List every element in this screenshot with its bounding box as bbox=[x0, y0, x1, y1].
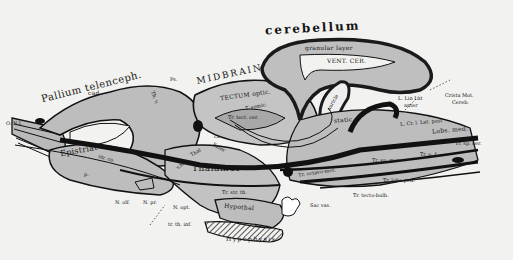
label-granular-layer: granular layer bbox=[305, 45, 353, 51]
habenular-nucleus bbox=[193, 120, 203, 132]
label-crista: Crista Mot. bbox=[445, 93, 474, 98]
label-tr-sp-mes: Tr. sp. mes. bbox=[372, 158, 401, 163]
label-lin-lat: L. Lin Lat bbox=[398, 96, 423, 101]
label-thalamus: Thalamus bbox=[192, 164, 240, 173]
label-tr-th-inf: tr. th. inf. bbox=[168, 222, 192, 227]
label-n-pr: N. pr. bbox=[143, 200, 157, 205]
label-tr-lobo-ped: Tr. lobo-ped. bbox=[383, 178, 415, 183]
label-lin-lat-sub: anter bbox=[404, 103, 418, 108]
label-tr-olf: Tr. o. f. bbox=[420, 152, 438, 157]
brain-diagram: cerebellum granular layer VENT. CER. aur… bbox=[0, 0, 513, 260]
label-n-opt: N. opt. bbox=[173, 205, 190, 210]
label-n-i: O. N.I. bbox=[6, 121, 22, 126]
label-p: p. bbox=[84, 172, 89, 177]
label-cad: cad bbox=[88, 90, 100, 96]
label-crista-sub: Cereb. bbox=[452, 100, 469, 105]
saccus-vasculosus bbox=[282, 197, 300, 216]
label-tr-tect-cer: Tr. tect. cer. bbox=[228, 115, 259, 120]
label-sac-vas: Sac vas. bbox=[310, 203, 331, 208]
label-vent-cer: VENT. CER. bbox=[327, 58, 366, 64]
label-cx: cx bbox=[214, 134, 220, 139]
label-hypophysis: Hypophysis bbox=[226, 236, 276, 242]
label-tr-str-th: Tr. str. th. bbox=[222, 190, 247, 195]
label-pallium-ps: Ps. bbox=[170, 77, 177, 82]
label-tr-sp-cer: Tr. sp. cer. bbox=[455, 141, 482, 146]
label-n-olf: N. olf. bbox=[115, 200, 130, 205]
label-tr-tecto-bulb: Tr. tecto-bulb. bbox=[353, 193, 389, 198]
